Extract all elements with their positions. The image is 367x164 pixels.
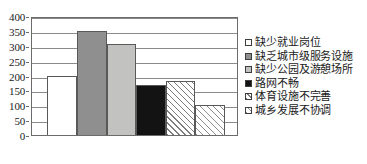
legend-swatch-black-icon — [245, 80, 252, 87]
legend-item-label: 缺乏城市级服务设施 — [255, 51, 353, 62]
bar-3 — [107, 44, 137, 135]
y-axis-tick-label: 350 — [9, 26, 25, 37]
bar-5 — [166, 81, 196, 135]
legend-item-label: 缺少公园及游憩场所 — [255, 64, 353, 75]
legend-item[interactable]: 城乡发展不协调 — [245, 104, 367, 118]
y-axis-tick-label: 250 — [9, 56, 25, 67]
legend-item-label: 路网不畅 — [255, 78, 299, 89]
legend-item[interactable]: 缺少公园及游憩场所 — [245, 63, 367, 77]
y-axis-tick-mark — [26, 77, 29, 78]
legend-swatch-white-icon — [245, 39, 252, 46]
y-axis-tick-label: 200 — [9, 71, 25, 82]
bar-4 — [136, 85, 166, 135]
legend-swatch-mid-icon — [245, 53, 252, 60]
legend-item[interactable]: 缺少就业岗位 — [245, 36, 367, 50]
y-axis-tick-label: 0 — [20, 131, 25, 142]
bar-series — [32, 18, 237, 135]
y-axis-tick-mark — [26, 136, 29, 137]
y-axis: 050100150200250300350400 — [0, 17, 29, 136]
bar-chart-figure: 050100150200250300350400 缺少就业岗位缺乏城市级服务设施… — [0, 0, 367, 164]
y-axis-tick-label: 300 — [9, 41, 25, 52]
legend-swatch-hatch-b-icon — [245, 107, 252, 114]
y-axis-tick-mark — [26, 91, 29, 92]
legend-swatch-hatch-a-icon — [245, 93, 252, 100]
bar-1 — [47, 76, 77, 136]
y-axis-tick-mark — [26, 121, 29, 122]
y-axis-tick-label: 400 — [9, 12, 25, 23]
legend-item[interactable]: 缺乏城市级服务设施 — [245, 50, 367, 64]
chart-legend: 缺少就业岗位缺乏城市级服务设施缺少公园及游憩场所路网不畅体育设施不完善城乡发展不… — [245, 36, 367, 117]
legend-item-label: 体育设施不完善 — [255, 91, 331, 102]
legend-item[interactable]: 体育设施不完善 — [245, 90, 367, 104]
legend-item-label: 城乡发展不协调 — [255, 105, 331, 116]
y-axis-tick-mark — [26, 32, 29, 33]
y-axis-tick-label: 100 — [9, 101, 25, 112]
y-axis-tick-mark — [26, 62, 29, 63]
legend-item[interactable]: 路网不畅 — [245, 77, 367, 91]
bar-6 — [195, 105, 225, 135]
y-axis-tick-label: 150 — [9, 86, 25, 97]
legend-swatch-lightmid-icon — [245, 66, 252, 73]
plot-area — [31, 17, 238, 136]
y-axis-tick-label: 50 — [14, 116, 25, 127]
y-axis-tick-mark — [26, 106, 29, 107]
legend-item-label: 缺少就业岗位 — [255, 37, 320, 48]
bar-2 — [77, 31, 107, 135]
y-axis-tick-mark — [26, 17, 29, 18]
y-axis-tick-mark — [26, 47, 29, 48]
